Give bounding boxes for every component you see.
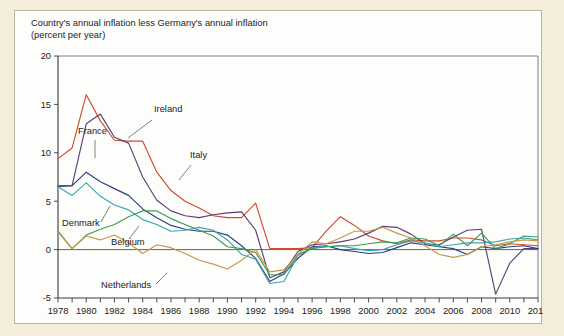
x-tick-label: 1994 <box>274 306 295 316</box>
x-tick-label: 2006 <box>443 306 464 316</box>
figure-panel: Country's annual inflation less Germany'… <box>14 10 542 324</box>
series-annotations-group: IrelandItalyFranceDenmarkBelgiumNetherla… <box>62 104 207 290</box>
series-line-ireland <box>58 95 538 249</box>
y-axis: -505101520 <box>41 51 58 303</box>
y-tick-label: 15 <box>41 100 51 110</box>
y-tick-label: 10 <box>41 148 51 158</box>
line-chart-svg: -505101520 19781980198219841986198819901… <box>15 11 543 325</box>
x-tick-label: 2004 <box>415 306 436 316</box>
x-tick-label: 1978 <box>48 306 69 316</box>
leader-line-netherlands <box>156 273 167 284</box>
x-tick-label: 2008 <box>471 306 492 316</box>
x-tick-label: 2012 <box>528 306 543 316</box>
y-tick-label: 0 <box>46 245 51 255</box>
series-label-denmark: Denmark <box>62 218 100 228</box>
series-label-france: France <box>78 126 107 136</box>
series-line-france <box>58 172 538 281</box>
x-tick-label: 1984 <box>132 306 153 316</box>
x-tick-label: 1988 <box>189 306 210 316</box>
leader-line-denmark <box>101 206 110 222</box>
x-tick-label: 1998 <box>330 306 351 316</box>
series-label-ireland: Ireland <box>154 104 182 114</box>
series-line-denmark <box>58 183 538 284</box>
y-tick-label: 5 <box>46 197 51 207</box>
x-tick-label: 1982 <box>104 306 125 316</box>
plot-area: -505101520 19781980198219841986198819901… <box>15 11 543 325</box>
x-tick-label: 2010 <box>499 306 520 316</box>
series-label-belgium: Belgium <box>111 237 145 247</box>
x-tick-label: 1986 <box>161 306 182 316</box>
x-tick-label: 1990 <box>217 306 238 316</box>
y-tick-label: 20 <box>41 51 51 61</box>
series-label-netherlands: Netherlands <box>101 280 151 290</box>
data-series-group <box>58 95 538 294</box>
series-label-italy: Italy <box>190 150 207 160</box>
x-tick-label: 1992 <box>245 306 266 316</box>
x-tick-label: 1980 <box>76 306 97 316</box>
x-tick-label: 1996 <box>302 306 323 316</box>
leader-line-italy <box>179 165 191 180</box>
y-tick-label: -5 <box>43 293 51 303</box>
plot-frame <box>58 56 538 298</box>
x-tick-label: 2002 <box>386 306 407 316</box>
x-axis: 1978198019821984198619881990199219941996… <box>48 298 543 316</box>
x-tick-label: 2000 <box>358 306 379 316</box>
leader-line-ireland <box>128 120 152 138</box>
